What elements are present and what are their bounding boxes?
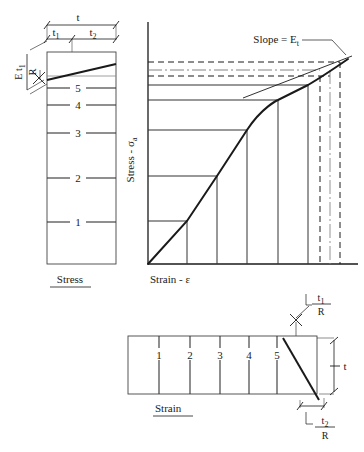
dimension-t1-label: t1 [52,26,59,41]
strain-block-outline [128,336,317,394]
stress-block-outline [47,52,116,264]
stress-block: t t1 t2 E t1 R [13,11,119,287]
chart-x-axis-label: Strain - ε [150,273,190,285]
strain-distribution-line [283,338,319,400]
slope-annotation: Slope = Et [253,33,299,48]
strain-block-caption: Strain [155,402,182,414]
dimension-t2-label: t2 [89,26,96,41]
strain-bottom-fraction-numerator: t2 [322,415,329,429]
strain-thickness-dimension [317,337,340,395]
strain-level-lines [159,336,277,394]
corner-fraction-numerator: E t1 [13,64,27,79]
stress-level-label-4: 4 [75,99,81,111]
strain-block: t1 R 1 2 3 4 5 [128,292,347,441]
stress-level-label-3: 3 [75,127,81,139]
strain-top-fraction-denominator: R [318,306,325,317]
strain-level-label-4: 4 [246,349,252,361]
corner-fraction-denominator: R [27,68,38,75]
strain-bottom-fraction: t2 R [297,398,335,441]
engineering-diagram: t t1 t2 E t1 R [0,0,364,452]
strain-top-fraction: t1 R [290,292,331,336]
strain-thickness-label: t [343,360,346,372]
strain-level-label-5: 5 [274,349,280,361]
stress-level-label-1: 1 [75,216,81,228]
chart-dashed-strain-lines [320,62,340,264]
strain-bottom-fraction-denominator: R [322,430,329,441]
stress-strain-chart: Stress - σa Strain - ε [124,22,358,285]
chart-dashed-stress-lines [148,62,340,76]
strain-level-label-1: 1 [156,349,162,361]
strain-level-label-2: 2 [187,349,193,361]
stress-strain-curve [148,59,348,264]
stress-level-label-2: 2 [75,172,81,184]
corner-fraction-Et1-over-R: E t1 R [13,41,47,94]
strain-top-fraction-numerator: t1 [318,292,325,306]
stress-block-caption: Stress [57,273,83,285]
stress-level-label-5: 5 [75,82,81,94]
strain-level-label-3: 3 [217,349,223,361]
chart-y-axis-label: Stress - σa [124,137,139,182]
figure-root: t t1 t2 E t1 R [0,0,364,452]
slope-leader-line [302,40,346,55]
dimension-total-label: t [76,11,79,23]
stress-level-lines [47,88,116,222]
chart-strain-level-lines [187,85,308,264]
chart-stress-level-lines [148,85,308,221]
stress-distribution-line [47,64,116,80]
